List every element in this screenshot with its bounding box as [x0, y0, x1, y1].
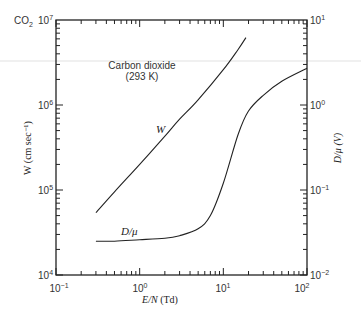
y-left-tick-label: 105	[38, 184, 53, 196]
annotation-title: Carbon dioxide	[108, 60, 176, 71]
w-curve-label: W	[156, 123, 166, 135]
x-tick-label: 10−1	[49, 282, 68, 294]
y-left-tick-labels: 104 105 106 107	[38, 14, 53, 281]
y-right-tick-labels: 10−2 10−1 100 101	[310, 14, 329, 281]
d-mu-curve-label: D/μ	[120, 225, 138, 237]
axis-ticks	[56, 20, 307, 275]
y-left-tick-label: 106	[38, 99, 53, 111]
y-right-tick-label: 10−1	[310, 184, 329, 196]
x-tick-label: 101	[215, 282, 230, 294]
y-right-axis-title: D/μ (V)	[332, 132, 344, 164]
x-tick-labels: 10−1 100 101 102	[49, 282, 309, 294]
y-left-tick-label: 107	[38, 14, 53, 26]
x-axis-title: E/N (Td)	[141, 294, 178, 306]
y-left-axis-title: W (cm sec⁻¹)	[22, 121, 34, 175]
annotation-temperature: (293 K)	[126, 71, 159, 82]
chart-canvas: CO2 Carbon dioxide (293 K) W D/μ E/N (Td…	[0, 0, 361, 316]
d-mu-curve	[96, 68, 307, 241]
y-left-tick-label: 104	[38, 269, 53, 281]
x-tick-label: 100	[132, 282, 147, 294]
y-right-tick-label: 10−2	[310, 269, 329, 281]
x-tick-label: 102	[294, 282, 309, 294]
plot-frame	[56, 20, 307, 275]
corner-label: CO2	[14, 15, 33, 28]
y-right-tick-label: 100	[310, 99, 325, 111]
y-right-tick-label: 101	[310, 14, 325, 26]
